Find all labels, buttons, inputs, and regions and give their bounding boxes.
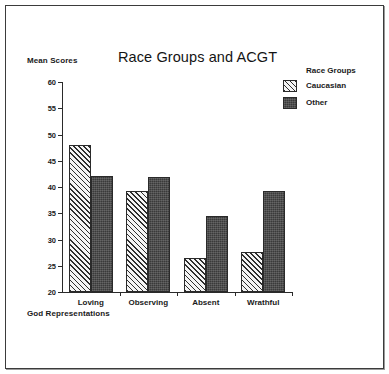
chart-title: Race Groups and ACGT bbox=[118, 49, 277, 65]
x-tick-mark bbox=[292, 292, 293, 296]
y-tick-mark bbox=[58, 266, 62, 267]
plot-area: 202530354045505560 LovingObservingAbsent… bbox=[62, 82, 292, 292]
legend-title: Race Groups bbox=[306, 66, 356, 75]
x-axis-title: God Representations bbox=[27, 309, 110, 318]
y-tick-label: 35 bbox=[48, 209, 56, 218]
x-category-label: Observing bbox=[128, 298, 168, 307]
x-category-label: Absent bbox=[192, 298, 219, 307]
bar bbox=[184, 258, 206, 292]
bar bbox=[263, 191, 285, 292]
y-tick-label: 60 bbox=[48, 78, 56, 87]
y-axis-line bbox=[62, 82, 63, 292]
y-tick-label: 45 bbox=[48, 156, 56, 165]
y-tick-label: 30 bbox=[48, 235, 56, 244]
legend-label: Other bbox=[306, 98, 327, 107]
bar bbox=[206, 216, 228, 292]
y-tick-label: 50 bbox=[48, 130, 56, 139]
y-tick-mark bbox=[58, 213, 62, 214]
y-tick-label: 55 bbox=[48, 104, 56, 113]
x-category-label: Wrathful bbox=[247, 298, 279, 307]
x-category-label: Loving bbox=[78, 298, 104, 307]
y-tick-label: 25 bbox=[48, 261, 56, 270]
y-tick-mark bbox=[58, 240, 62, 241]
bar bbox=[69, 145, 91, 292]
y-tick-mark bbox=[58, 108, 62, 109]
x-tick-mark bbox=[177, 292, 178, 296]
bar bbox=[241, 252, 263, 292]
y-tick-mark bbox=[58, 135, 62, 136]
y-tick-label: 20 bbox=[48, 288, 56, 297]
bar bbox=[126, 191, 148, 292]
y-tick-mark bbox=[58, 292, 62, 293]
legend-swatch bbox=[283, 80, 297, 92]
bar bbox=[148, 177, 170, 292]
y-tick-mark bbox=[58, 82, 62, 83]
legend-swatch bbox=[283, 97, 297, 109]
legend-label: Caucasian bbox=[306, 81, 346, 90]
y-tick-mark bbox=[58, 187, 62, 188]
x-tick-mark bbox=[120, 292, 121, 296]
y-axis-title: Mean Scores bbox=[27, 56, 77, 65]
y-tick-label: 40 bbox=[48, 183, 56, 192]
x-tick-mark bbox=[235, 292, 236, 296]
bar bbox=[91, 176, 113, 292]
chart-figure: Race Groups and ACGT Mean Scores God Rep… bbox=[0, 0, 389, 374]
y-tick-mark bbox=[58, 161, 62, 162]
